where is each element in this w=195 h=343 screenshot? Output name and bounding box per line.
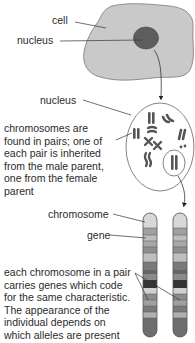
nucleus-mid-leader-line — [83, 100, 131, 115]
nucleus-label-mid: nucleus — [40, 94, 76, 107]
chromosome-label: chromosome — [48, 208, 109, 221]
chromosome-left — [143, 213, 157, 337]
gene-leader-line — [110, 235, 146, 238]
alleles-description: each chromosome in a pair carries genes … — [4, 266, 131, 342]
chromosome-right — [173, 213, 187, 337]
cell-label: cell — [52, 14, 68, 27]
chromosome-pairs-description: chromosomes are found in pairs; one of e… — [4, 122, 104, 198]
nucleus-shape — [134, 27, 159, 49]
nucleus-label-top: nucleus — [17, 34, 53, 47]
gene-label: gene — [87, 229, 110, 242]
chromosome-leader-line — [113, 214, 145, 222]
